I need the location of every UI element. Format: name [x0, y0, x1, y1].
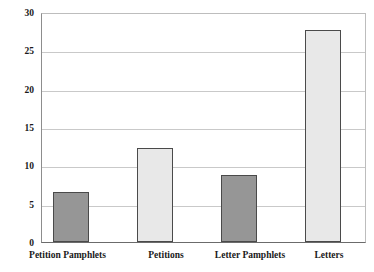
x-label-letters: Letters: [290, 250, 368, 261]
y-tick-30: 30: [0, 8, 34, 18]
bar-chart: 30 25 20 15 10 5 0 Petition Pamphlets Pe…: [0, 0, 374, 272]
y-tick-5: 5: [0, 200, 34, 210]
bar-petition-pamphlets[interactable]: [53, 192, 89, 242]
bar-letter-pamphlets[interactable]: [221, 175, 257, 242]
y-tick-25: 25: [0, 46, 34, 56]
bar-letters[interactable]: [305, 30, 341, 242]
plot-area: [41, 13, 366, 243]
x-label-petition-pamphlets: Petition Pamphlets: [11, 250, 124, 261]
bar-petitions[interactable]: [137, 148, 173, 242]
y-tick-0: 0: [0, 238, 34, 248]
y-tick-20: 20: [0, 85, 34, 95]
x-label-letter-pamphlets: Letter Pamphlets: [196, 250, 304, 261]
y-tick-10: 10: [0, 161, 34, 171]
y-tick-15: 15: [0, 123, 34, 133]
